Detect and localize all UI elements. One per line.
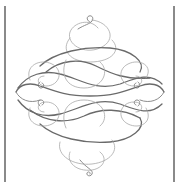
flourish-bottom-half — [18, 100, 162, 176]
flourish-top-half — [18, 16, 162, 88]
calligraphic-flourish-ornament — [0, 0, 179, 194]
